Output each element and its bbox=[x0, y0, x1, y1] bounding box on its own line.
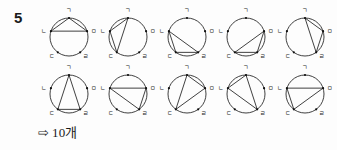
vertex-dot-g bbox=[304, 17, 306, 19]
vertex-dot-d bbox=[57, 51, 59, 53]
vertex-label-m: ㅁ bbox=[268, 28, 274, 34]
vertex-dot-r bbox=[138, 51, 140, 53]
triangle-4: ㄱㄴㄷㄹㅁ bbox=[217, 8, 276, 65]
vertex-label-r: ㄹ bbox=[260, 110, 266, 116]
vertex-label-g: ㄱ bbox=[243, 65, 249, 70]
vertex-label-g: ㄱ bbox=[184, 65, 190, 70]
circle-outline bbox=[50, 18, 88, 56]
vertex-dot-r bbox=[197, 108, 199, 110]
vertex-dot-m bbox=[86, 87, 88, 89]
vertex-dot-d bbox=[175, 51, 177, 53]
vertex-label-m: ㅁ bbox=[327, 85, 333, 91]
vertex-dot-d bbox=[116, 51, 118, 53]
answer-text: 10개 bbox=[52, 126, 78, 139]
circle-outline bbox=[109, 75, 147, 113]
vertex-dot-n bbox=[286, 87, 288, 89]
vertex-dot-r bbox=[79, 51, 81, 53]
vertex-label-r: ㄹ bbox=[142, 53, 148, 59]
vertex-label-r: ㄹ bbox=[83, 110, 89, 116]
vertex-label-g: ㄱ bbox=[66, 65, 72, 70]
vertex-dot-r bbox=[315, 51, 317, 53]
vertex-label-g: ㄱ bbox=[125, 65, 131, 70]
vertex-label-r: ㄹ bbox=[260, 53, 266, 59]
vertex-dot-r bbox=[138, 108, 140, 110]
vertex-label-r: ㄹ bbox=[201, 110, 207, 116]
vertex-label-g: ㄱ bbox=[243, 8, 249, 13]
vertex-label-d: ㄷ bbox=[49, 53, 55, 59]
vertex-label-n: ㄴ bbox=[41, 85, 47, 91]
inscribed-triangle bbox=[176, 75, 205, 109]
vertex-label-m: ㅁ bbox=[150, 28, 156, 34]
vertex-label-d: ㄷ bbox=[108, 53, 114, 59]
vertex-dot-r bbox=[256, 108, 258, 110]
vertex-label-d: ㄷ bbox=[167, 110, 173, 116]
circle-outline bbox=[286, 18, 324, 56]
vertex-label-n: ㄴ bbox=[159, 85, 165, 91]
vertex-label-m: ㅁ bbox=[91, 28, 97, 34]
figure-row-2: ㄱㄴㄷㄹㅁㄱㄴㄷㄹㅁㄱㄴㄷㄹㅁㄱㄴㄷㄹㅁㄱㄴㄷㄹㅁ bbox=[40, 65, 336, 122]
triangle-1: ㄱㄴㄷㄹㅁ bbox=[40, 8, 99, 65]
vertex-label-d: ㄷ bbox=[285, 53, 291, 59]
vertex-dot-g bbox=[127, 17, 129, 19]
vertex-dot-n bbox=[50, 87, 52, 89]
triangle-6: ㄱㄴㄷㄹㅁ bbox=[40, 65, 99, 122]
vertex-label-d: ㄷ bbox=[226, 110, 232, 116]
vertex-label-r: ㄹ bbox=[201, 53, 207, 59]
vertex-label-n: ㄴ bbox=[159, 28, 165, 34]
vertex-label-n: ㄴ bbox=[218, 85, 224, 91]
vertex-dot-m bbox=[145, 30, 147, 32]
vertex-dot-n bbox=[286, 30, 288, 32]
circle-outline bbox=[50, 75, 88, 113]
vertex-dot-r bbox=[256, 51, 258, 53]
answer-line: ⇨10개 bbox=[38, 126, 78, 139]
inscribed-triangle bbox=[169, 31, 198, 52]
inscribed-triangle bbox=[287, 88, 323, 109]
vertex-dot-g bbox=[186, 17, 188, 19]
inscribed-triangle bbox=[110, 18, 128, 52]
vertex-label-g: ㄱ bbox=[302, 65, 308, 70]
circle-outline bbox=[109, 18, 147, 56]
circle-outline bbox=[168, 18, 206, 56]
triangle-9: ㄱㄴㄷㄹㅁ bbox=[217, 65, 276, 122]
vertex-dot-m bbox=[263, 30, 265, 32]
vertex-label-m: ㅁ bbox=[327, 28, 333, 34]
vertex-label-d: ㄷ bbox=[108, 110, 114, 116]
inscribed-triangle bbox=[305, 18, 323, 52]
vertex-label-d: ㄷ bbox=[226, 53, 232, 59]
inscribed-triangle bbox=[228, 75, 257, 109]
vertex-label-n: ㄴ bbox=[41, 28, 47, 34]
vertex-dot-n bbox=[168, 87, 170, 89]
vertex-label-d: ㄷ bbox=[49, 110, 55, 116]
vertex-label-r: ㄹ bbox=[83, 53, 89, 59]
vertex-label-g: ㄱ bbox=[302, 8, 308, 13]
worksheet-page: 5 ㄱㄴㄷㄹㅁㄱㄴㄷㄹㅁㄱㄴㄷㄹㅁㄱㄴㄷㄹㅁㄱㄴㄷㄹㅁ ㄱㄴㄷㄹㅁㄱㄴㄷㄹㅁㄱㄴ… bbox=[0, 0, 337, 150]
vertex-label-r: ㄹ bbox=[319, 53, 325, 59]
vertex-dot-m bbox=[263, 87, 265, 89]
vertex-label-n: ㄴ bbox=[100, 85, 106, 91]
vertex-dot-r bbox=[79, 108, 81, 110]
figure-row-1: ㄱㄴㄷㄹㅁㄱㄴㄷㄹㅁㄱㄴㄷㄹㅁㄱㄴㄷㄹㅁㄱㄴㄷㄹㅁ bbox=[40, 8, 336, 65]
triangle-7: ㄱㄴㄷㄹㅁ bbox=[99, 65, 158, 122]
vertex-label-n: ㄴ bbox=[218, 28, 224, 34]
inscribed-triangle bbox=[51, 18, 87, 31]
vertex-dot-g bbox=[304, 74, 306, 76]
vertex-label-g: ㄱ bbox=[66, 8, 72, 13]
vertex-dot-g bbox=[186, 74, 188, 76]
triangle-2: ㄱㄴㄷㄹㅁ bbox=[99, 8, 158, 65]
vertex-dot-m bbox=[86, 30, 88, 32]
inscribed-triangle bbox=[58, 75, 80, 109]
vertex-dot-d bbox=[57, 108, 59, 110]
circle-outline bbox=[227, 18, 265, 56]
vertex-dot-d bbox=[293, 108, 295, 110]
inscribed-triangle bbox=[235, 31, 264, 52]
vertex-dot-d bbox=[234, 108, 236, 110]
vertex-dot-m bbox=[322, 30, 324, 32]
vertex-dot-g bbox=[245, 74, 247, 76]
vertex-label-g: ㄱ bbox=[125, 8, 131, 13]
vertex-dot-m bbox=[204, 87, 206, 89]
vertex-label-r: ㄹ bbox=[319, 110, 325, 116]
vertex-dot-d bbox=[116, 108, 118, 110]
answer-arrow-icon: ⇨ bbox=[38, 126, 49, 139]
vertex-dot-d bbox=[234, 51, 236, 53]
vertex-label-m: ㅁ bbox=[91, 85, 97, 91]
